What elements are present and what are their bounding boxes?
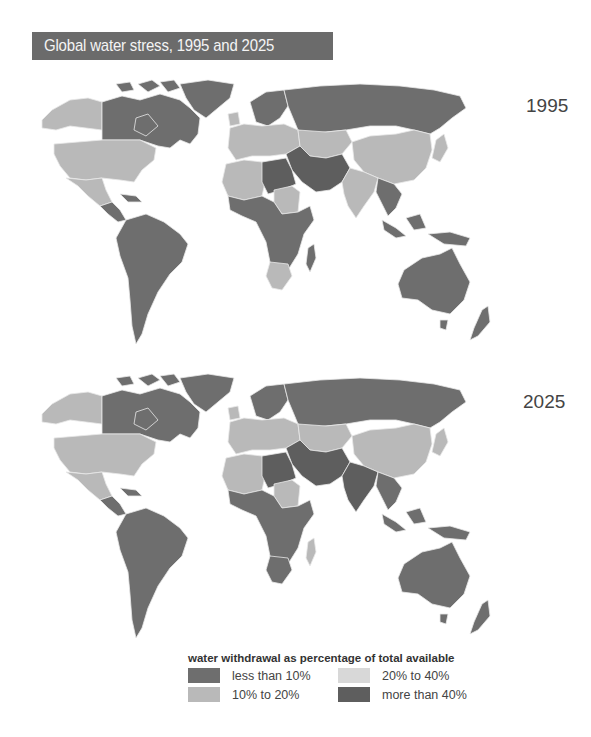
region-usa — [54, 434, 156, 476]
region-usa — [54, 140, 156, 182]
year-label-2025: 2025 — [523, 391, 565, 413]
region-indonesia — [382, 508, 470, 540]
region-russia — [284, 378, 466, 428]
region-india — [342, 168, 378, 218]
region-madagascar — [306, 244, 316, 272]
world-map-1995 — [30, 78, 500, 358]
region-australia — [398, 542, 470, 608]
region-madagascar — [306, 538, 316, 566]
region-new-zealand — [470, 306, 490, 340]
region-australia — [440, 614, 448, 624]
region-south-africa — [266, 262, 292, 290]
legend-swatch — [338, 668, 370, 683]
page-title: Global water stress, 1995 and 2025 — [44, 36, 274, 56]
legend-swatch — [188, 687, 220, 702]
legend-item-20-to-40: 20% to 40% — [338, 668, 478, 683]
region-southeast-asia — [376, 178, 402, 216]
region-north-africa-west — [222, 454, 266, 494]
legend-item-less-than-10: less than 10% — [188, 668, 338, 683]
legend: water withdrawal as percentage of total … — [188, 652, 478, 702]
region-alaska — [42, 98, 102, 130]
legend-swatch — [188, 668, 220, 683]
region-europe-west — [228, 406, 240, 420]
region-india — [342, 462, 378, 512]
region-southeast-asia — [376, 472, 402, 510]
region-canada — [116, 374, 180, 386]
legend-item-10-to-20: 10% to 20% — [188, 687, 338, 702]
world-map-2025 — [30, 372, 500, 652]
region-new-zealand — [470, 600, 490, 634]
region-russia — [284, 84, 466, 134]
region-canada — [116, 80, 180, 92]
region-south-america — [116, 508, 188, 638]
region-australia — [440, 320, 448, 330]
region-south-africa — [266, 556, 292, 584]
region-mexico — [66, 178, 112, 206]
legend-swatch — [338, 687, 370, 702]
legend-title: water withdrawal as percentage of total … — [188, 652, 478, 664]
region-japan — [432, 428, 448, 456]
region-mexico — [66, 472, 112, 500]
region-japan — [432, 134, 448, 162]
region-south-america — [116, 214, 188, 344]
region-europe-west — [228, 112, 240, 126]
legend-item-more-than-40: more than 40% — [338, 687, 478, 702]
year-label-1995: 1995 — [526, 95, 568, 117]
region-north-africa-west — [222, 160, 266, 200]
region-europe-north — [250, 384, 288, 420]
region-alaska — [42, 392, 102, 424]
region-europe-north — [250, 90, 288, 126]
region-indonesia — [382, 214, 470, 246]
title-banner: Global water stress, 1995 and 2025 — [32, 32, 333, 60]
region-australia — [398, 248, 470, 314]
